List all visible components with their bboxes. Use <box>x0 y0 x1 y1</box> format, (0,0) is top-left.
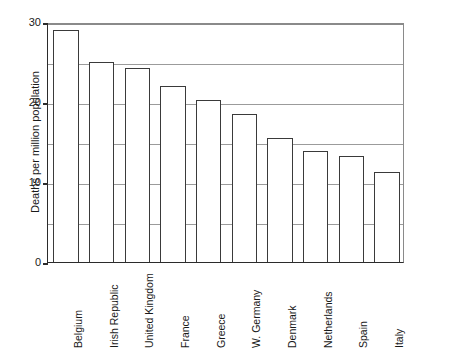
y-tick-label-20: 20 <box>11 97 41 108</box>
bar-greece[interactable] <box>196 100 221 262</box>
bar-belgium[interactable] <box>53 30 78 262</box>
bar-chart-figure: Deaths per million population 0102030 Be… <box>0 0 472 352</box>
x-label-united-kingdom: United Kingdom <box>142 273 156 348</box>
bar-w-germany[interactable] <box>232 114 257 262</box>
x-label-france: France <box>178 315 192 348</box>
x-label-netherlands: Netherlands <box>321 291 335 348</box>
bar-denmark[interactable] <box>267 138 292 262</box>
bar-united-kingdom[interactable] <box>125 68 150 262</box>
bar-france[interactable] <box>160 86 185 262</box>
x-label-w-germany: W. Germany <box>249 290 263 348</box>
x-label-spain: Spain <box>356 321 370 348</box>
y-tick-label-10: 10 <box>11 177 41 188</box>
bar-italy[interactable] <box>374 172 399 262</box>
bar-spain[interactable] <box>339 156 364 262</box>
y-tick-0 <box>43 263 48 264</box>
y-axis-tick-labels: 0102030 <box>7 23 41 263</box>
x-label-greece: Greece <box>214 314 228 348</box>
bar-series <box>48 24 403 262</box>
y-tick-label-0: 0 <box>11 257 41 268</box>
bar-netherlands[interactable] <box>303 151 328 262</box>
y-tick-label-30: 30 <box>11 17 41 28</box>
x-label-belgium: Belgium <box>71 310 85 348</box>
bar-irish-republic[interactable] <box>89 62 114 262</box>
x-label-irish-republic: Irish Republic <box>107 284 121 348</box>
plot-area <box>47 23 404 263</box>
x-label-italy: Italy <box>392 329 406 348</box>
x-label-denmark: Denmark <box>285 305 299 348</box>
x-axis-category-labels: BelgiumIrish RepublicUnited KingdomFranc… <box>47 266 404 352</box>
